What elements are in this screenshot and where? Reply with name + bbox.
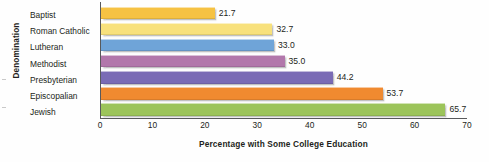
bar-row: 33.0: [101, 37, 468, 53]
category-label-jewish: Jewish: [30, 104, 96, 120]
bar-value-label: 44.2: [333, 71, 354, 83]
x-tick-0: 0: [98, 120, 103, 130]
category-label-methodist: Methodist: [30, 56, 96, 72]
bar-chart: Denomination BaptistRoman CatholicLuther…: [0, 0, 489, 162]
bar-roman-catholic: [101, 23, 272, 36]
x-tick-50: 50: [357, 120, 366, 130]
bar-baptist: [101, 7, 215, 20]
scan-artifact-mark: [2, 107, 6, 108]
bar-jewish: [101, 103, 445, 116]
bar-value-label: 32.7: [272, 23, 293, 35]
x-axis-tick-labels: 010203040506070: [100, 120, 467, 132]
category-label-lutheran: Lutheran: [30, 39, 96, 55]
bar-lutheran: [101, 39, 274, 52]
bar-row: 32.7: [101, 21, 468, 37]
bar-row: 35.0: [101, 54, 468, 70]
bar-row: 44.2: [101, 70, 468, 86]
y-axis-title: Denomination: [12, 11, 21, 91]
bar-row: 53.7: [101, 86, 468, 102]
bar-row: 21.7: [101, 5, 468, 21]
x-tick-20: 20: [200, 120, 209, 130]
category-label-baptist: Baptist: [30, 7, 96, 23]
x-tick-70: 70: [462, 120, 471, 130]
category-label-roman-catholic: Roman Catholic: [30, 23, 96, 39]
bar-value-label: 35.0: [285, 55, 306, 67]
category-label-presbyterian: Presbyterian: [30, 72, 96, 88]
plot-area: 21.732.733.035.044.253.765.7: [100, 2, 467, 119]
bar-presbyterian: [101, 71, 333, 84]
x-tick-30: 30: [253, 120, 262, 130]
bar-value-label: 65.7: [445, 103, 466, 115]
x-axis-line: [100, 118, 467, 119]
x-axis-title: Percentage with Some College Education: [100, 139, 467, 149]
scan-artifact-mark: [2, 79, 6, 80]
x-tick-60: 60: [410, 120, 419, 130]
category-label-episcopalian: Episcopalian: [30, 88, 96, 104]
category-axis-labels: BaptistRoman CatholicLutheranMethodistPr…: [30, 5, 96, 118]
bar-row: 65.7: [101, 102, 468, 118]
bar-value-label: 53.7: [383, 87, 404, 99]
bar-value-label: 33.0: [274, 39, 295, 51]
bar-methodist: [101, 55, 285, 68]
bar-episcopalian: [101, 87, 383, 100]
x-tick-40: 40: [305, 120, 314, 130]
bar-value-label: 21.7: [215, 7, 236, 19]
x-tick-10: 10: [148, 120, 157, 130]
